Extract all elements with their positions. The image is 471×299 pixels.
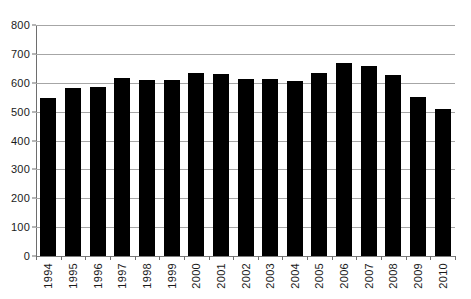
x-tick-mark-1997 [110, 256, 111, 260]
y-tick-label-800: 800 [11, 19, 36, 31]
x-tick-mark-2006 [332, 256, 333, 260]
bar-2000 [188, 73, 204, 256]
y-tick-label-300: 300 [11, 163, 36, 175]
bar-2002 [238, 79, 254, 256]
x-tick-label-1995: 1995 [67, 263, 79, 289]
x-tick-label-2010: 2010 [437, 263, 449, 289]
bar-2004 [287, 81, 303, 256]
bar-2003 [262, 79, 278, 256]
x-tick-mark-2005 [307, 256, 308, 260]
x-tick-mark-1995 [61, 256, 62, 260]
x-tick-label-2004: 2004 [289, 263, 301, 289]
y-tick-label-700: 700 [11, 48, 36, 60]
x-tick-label-2002: 2002 [240, 263, 252, 289]
x-tick-mark-2004 [282, 256, 283, 260]
x-tick-label-2008: 2008 [387, 263, 399, 289]
x-tick-label-2006: 2006 [338, 263, 350, 289]
x-tick-mark-1996 [85, 256, 86, 260]
bar-1994 [40, 98, 56, 256]
x-tick-mark-2001 [209, 256, 210, 260]
gridline-700 [36, 54, 455, 55]
x-tick-mark-2008 [381, 256, 382, 260]
x-tick-mark-1998 [135, 256, 136, 260]
bar-1996 [90, 87, 106, 256]
y-tick-label-200: 200 [11, 192, 36, 204]
y-tick-label-0: 0 [24, 250, 36, 262]
bar-2005 [311, 73, 327, 256]
x-tick-label-2005: 2005 [313, 263, 325, 289]
x-tick-label-2003: 2003 [264, 263, 276, 289]
x-tick-label-2000: 2000 [190, 263, 202, 289]
x-tick-mark-2002 [233, 256, 234, 260]
bar-1999 [164, 80, 180, 256]
x-tick-mark-2007 [356, 256, 357, 260]
x-tick-mark-1999 [159, 256, 160, 260]
bar-2009 [410, 97, 426, 256]
bar-chart: 0100200300400500600700800 19941995199619… [0, 0, 471, 299]
x-tick-label-1996: 1996 [92, 263, 104, 289]
x-tick-label-1999: 1999 [166, 263, 178, 289]
bar-1998 [139, 80, 155, 256]
x-tick-label-1997: 1997 [116, 263, 128, 289]
bar-2008 [385, 75, 401, 256]
x-tick-mark-2003 [258, 256, 259, 260]
bar-1997 [114, 78, 130, 256]
x-tick-label-2007: 2007 [363, 263, 375, 289]
gridline-800 [36, 25, 455, 26]
x-tick-label-2001: 2001 [215, 263, 227, 289]
plot-area: 0100200300400500600700800 [36, 25, 455, 256]
x-tick-label-1994: 1994 [42, 263, 54, 289]
x-tick-mark-2010 [430, 256, 431, 260]
bar-2001 [213, 74, 229, 256]
bar-2010 [435, 109, 451, 256]
category-axis: 1994199519961997199819992000200120022003… [36, 256, 455, 299]
x-tick-label-1998: 1998 [141, 263, 153, 289]
y-tick-label-500: 500 [11, 106, 36, 118]
bar-2007 [361, 66, 377, 256]
x-tick-label-2009: 2009 [412, 263, 424, 289]
x-tick-mark-1994 [36, 256, 37, 260]
y-tick-label-100: 100 [11, 221, 36, 233]
bar-1995 [65, 88, 81, 256]
x-tick-mark-end [455, 256, 456, 260]
x-tick-mark-2000 [184, 256, 185, 260]
x-tick-mark-2009 [406, 256, 407, 260]
y-tick-label-400: 400 [11, 135, 36, 147]
bar-2006 [336, 63, 352, 256]
y-tick-label-600: 600 [11, 77, 36, 89]
